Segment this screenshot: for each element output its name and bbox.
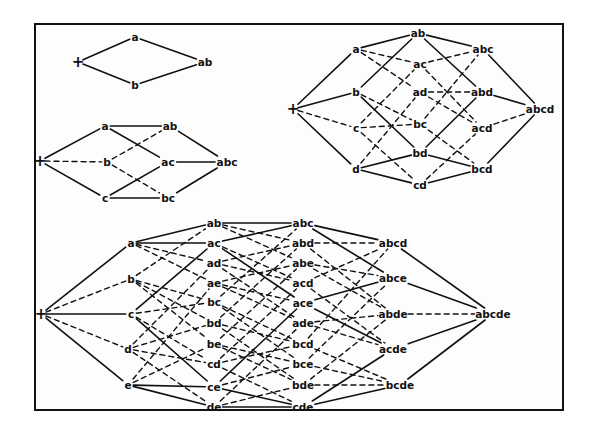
node-ab: ab [198,56,213,68]
lattice-diagram-lattice-5: +abcdeabacadaebcbdbecdcedeabcabdabeacdac… [35,217,511,413]
node-abe: abe [292,257,314,269]
edge-abd-abcd [494,95,525,104]
node-b: b [103,156,111,168]
edge-empty-b [298,93,351,107]
edges [46,223,485,407]
node-b: b [127,273,135,285]
edge-empty-b [46,281,126,312]
edge-ac-abc [429,52,472,62]
edge-empty-a [45,129,100,158]
node-b: b [352,86,360,98]
edge-bcde-abcde [408,320,485,379]
node-ac: ac [207,237,220,249]
node-c: c [128,308,134,320]
edge-a-ac [110,129,159,157]
edge-a-ac [361,50,411,62]
node-abde: abde [378,308,407,320]
node-acd: acd [472,122,493,134]
edge-acd-abcd [494,114,525,124]
lattice-diagram-lattice-2: +abab [72,31,213,91]
edge-empty-b [83,64,130,83]
edge-c-bc [136,303,205,313]
node-cd: cd [207,358,221,370]
node-a: a [352,43,359,55]
node-ad: ad [207,257,222,269]
node-ae: ae [207,277,221,289]
node-bd: bd [206,317,221,329]
edge-empty-c [45,164,100,195]
edge-a-ab [361,35,409,47]
edge-ace-abce [315,282,378,299]
edge-abd-abde [311,249,386,308]
node-ac: ac [161,156,174,168]
edge-a-ab [136,225,205,242]
edge-b-bc [136,280,205,299]
edge-empty-d [298,114,351,164]
edge-bd-bcd [429,155,471,166]
edge-b-ab [140,65,196,83]
edge-abcd-abcde [401,249,484,308]
edge-ab-abc [179,131,218,156]
edge-a-ab [140,39,196,59]
edge-empty-b [45,161,102,162]
node-ce: ce [207,381,220,393]
node-bcd: bcd [471,163,492,175]
edge-empty-d [46,316,123,347]
lattice-diagram-lattice-4: +abcdabacadbcbdcdabcabdacdbcdabcd [287,27,554,191]
edge-be-bce [223,346,292,361]
edge-d-bd [361,155,411,168]
node-empty-set: + [35,305,48,323]
edge-abc-abcd [315,226,378,240]
node-bc: bc [207,296,221,308]
node-bd: bd [412,147,427,159]
node-bc: bc [413,118,427,130]
node-ac: ac [413,58,426,70]
edge-a-ad [361,53,411,87]
edge-bcd-abcd [488,115,534,163]
node-acd: acd [293,277,314,289]
edge-c-ac [110,167,159,195]
edge-empty-c [298,111,351,127]
node-bde: bde [292,379,314,391]
node-abcde: abcde [475,308,510,320]
node-c: c [353,122,359,134]
edge-b-ab [136,229,205,276]
edge-d-cd [361,170,411,183]
node-abc: abc [293,217,314,229]
node-cde: cde [293,401,314,413]
node-cd: cd [413,179,427,191]
edge-bc-bcd [223,306,292,338]
edge-ac-abc [223,226,292,241]
edge-empty-a [46,247,126,310]
node-b: b [131,79,139,91]
node-abcd: abcd [526,103,554,115]
node-bcd: bcd [292,338,313,350]
edge-cd-bcd [223,347,292,362]
node-bcde: bcde [386,379,414,391]
node-a: a [127,237,134,249]
edge-ab-abc [427,35,472,46]
node-empty-set: + [287,100,300,118]
edge-cde-bcde [315,388,385,404]
node-abd: abd [292,237,314,249]
edge-cd-bcd [429,172,471,183]
node-abcd: abcd [379,237,407,249]
nodes: +abcdeabacadaebcbdbecdcedeabcabdabeacdac… [35,217,511,413]
edge-ac-acd [426,70,476,122]
edge-cde-acde [312,355,383,401]
node-empty-set: + [34,152,47,170]
node-ace: ace [293,297,313,309]
node-ab: ab [207,217,222,229]
node-a: a [101,120,108,132]
node-bc: bc [161,192,175,204]
edge-bc-abc [177,168,218,193]
edge-empty-a [298,54,351,104]
edge-empty-a [83,39,130,59]
node-abc: abc [473,43,494,55]
node-abd: abd [471,86,493,98]
edges [83,39,196,83]
node-ad: ad [413,86,428,98]
edge-a-ae [136,246,205,279]
edge-bc-bcd [428,130,473,163]
edge-e-de [133,386,205,404]
